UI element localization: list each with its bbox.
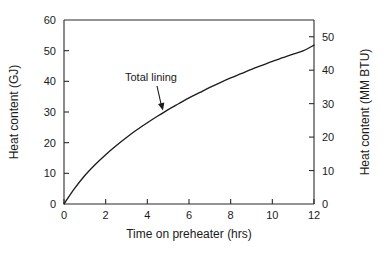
- x-tick-label: 10: [266, 209, 278, 221]
- y2-tick-label: 0: [322, 198, 328, 210]
- x-tick-label: 0: [61, 209, 67, 221]
- y2-tick-label: 40: [322, 64, 334, 76]
- y-tick-label: 40: [44, 75, 56, 87]
- x-tick-label: 4: [144, 209, 150, 221]
- x-axis-title: Time on preheater (hrs): [126, 227, 252, 241]
- y-axis-right-title: Heat content (MM BTU): [358, 49, 372, 176]
- y-tick-label: 50: [44, 45, 56, 57]
- heat-content-line-chart: 024681012 0102030405060 01020304050 Tota…: [0, 0, 384, 258]
- y2-tick-label: 30: [322, 98, 334, 110]
- y-axis-left-title: Heat content (GJ): [7, 65, 21, 160]
- y-tick-label: 30: [44, 106, 56, 118]
- y-tick-label: 60: [44, 14, 56, 26]
- x-tick-label: 8: [228, 209, 234, 221]
- chart-container: 024681012 0102030405060 01020304050 Tota…: [0, 0, 384, 258]
- annotation-label: Total lining: [125, 71, 177, 83]
- y-tick-label: 20: [44, 137, 56, 149]
- y2-tick-label: 10: [322, 165, 334, 177]
- y-tick-label: 0: [50, 198, 56, 210]
- x-tick-label: 2: [103, 209, 109, 221]
- x-tick-label: 12: [308, 209, 320, 221]
- y-tick-label: 10: [44, 167, 56, 179]
- x-tick-label: 6: [186, 209, 192, 221]
- y2-tick-label: 50: [322, 31, 334, 43]
- y2-tick-label: 20: [322, 131, 334, 143]
